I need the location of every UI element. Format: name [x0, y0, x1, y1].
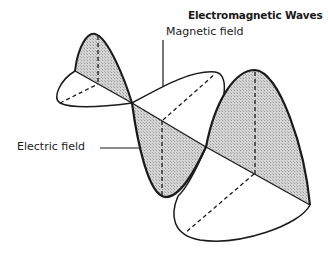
electric-lobe-right [206, 70, 310, 205]
magnetic-lobe-right [174, 196, 310, 241]
em-wave-diagram [0, 0, 328, 256]
electric-lobe-middle [132, 103, 206, 197]
electric-lobe-left [75, 34, 132, 103]
